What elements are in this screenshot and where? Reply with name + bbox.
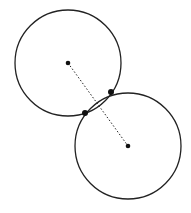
intersection-point-lower-left xyxy=(82,110,88,116)
geometry-figure xyxy=(0,0,191,213)
upper-center-point xyxy=(66,61,71,66)
intersection-point-upper-right xyxy=(108,89,114,95)
lower-center-point xyxy=(126,144,131,149)
